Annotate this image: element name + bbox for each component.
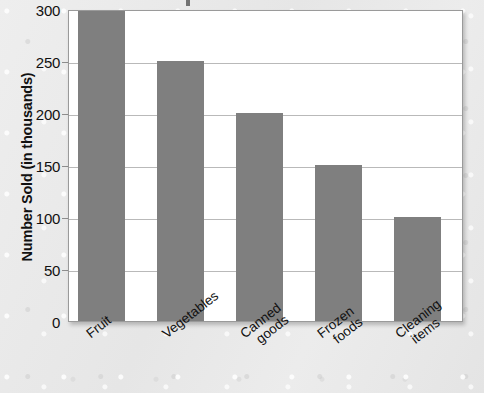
x-axis-label: Frozenfoods [315,304,365,352]
x-axis-label: Cannedgoods [238,301,292,352]
x-axis-label: Cleaningitems [393,297,452,352]
x-axis-label: Vegetables [160,289,221,341]
x-axis-label: Fruit [84,313,114,340]
chart-page: Number Sold (in thousands) 0501001502002… [0,0,484,393]
x-axis-category-labels: FruitVegetablesCannedgoodsFrozenfoodsCle… [0,0,484,393]
